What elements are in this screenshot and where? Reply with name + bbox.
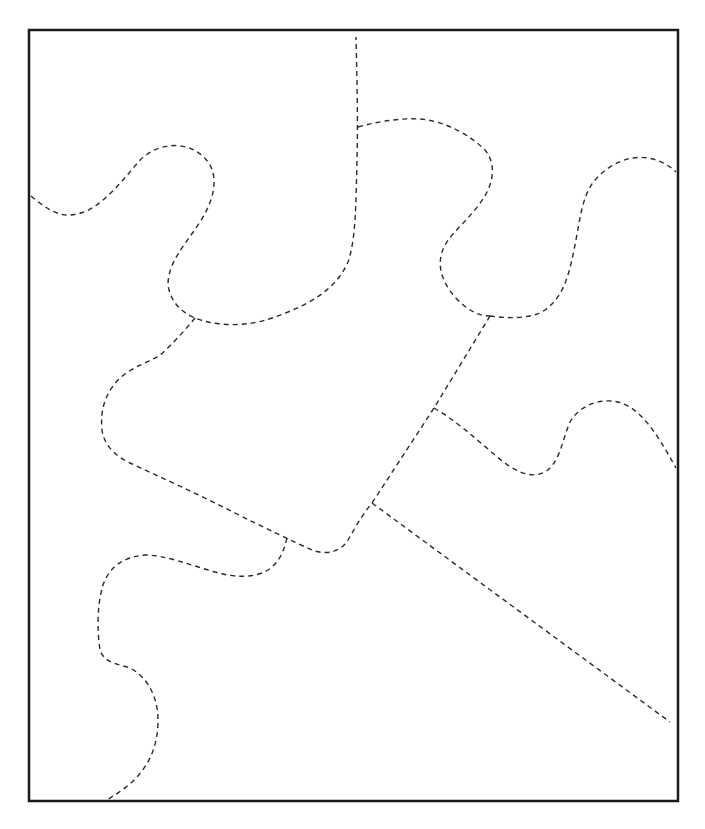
puzzle-diagram [0, 0, 705, 829]
puzzle-frame [29, 30, 678, 801]
cut-line-lower-diagonal [372, 503, 670, 722]
cut-line-right-middle-tab [434, 401, 676, 475]
cut-line-top-center-tab [358, 119, 492, 316]
cut-line-center-left-outline [102, 318, 372, 553]
puzzle-template-canvas [0, 0, 705, 829]
cut-line-top-left-curve [31, 37, 357, 325]
cut-line-bottom-left-tab [98, 538, 287, 800]
cut-line-top-right-tab [490, 157, 676, 317]
cut-line-center-diagonal [372, 316, 490, 503]
